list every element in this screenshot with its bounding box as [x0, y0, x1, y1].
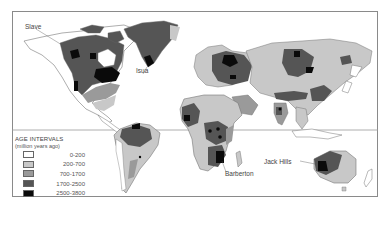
rae-craton [90, 53, 96, 59]
legend-label: 0-200 [41, 152, 85, 158]
legend-label: 1700-2500 [41, 181, 85, 187]
congo-core-3 [218, 135, 222, 139]
legend-item: 700-1700 [15, 169, 85, 179]
sa-craton-dot [139, 156, 141, 158]
legend-swatch-1700-2500 [23, 180, 34, 187]
legend-title: AGE INTERVALS [15, 136, 85, 143]
wyoming-craton [74, 81, 78, 91]
jack-hills-pointer [300, 161, 315, 164]
anabar-shield [294, 51, 300, 57]
kaapvaal-craton [216, 151, 224, 163]
legend-subtitle: (million years ago) [15, 143, 85, 150]
congo-core-1 [208, 129, 212, 133]
legend-swatch-200-700 [23, 161, 34, 168]
new-zealand [364, 169, 372, 187]
greenland-east-belt [170, 25, 180, 41]
madagascar [236, 151, 242, 167]
site-label-isua: Isua [136, 67, 148, 74]
site-label-slave: Slave [25, 23, 41, 30]
indian-craton-dot [279, 108, 282, 111]
legend-label: 700-1700 [41, 171, 85, 177]
site-label-jack-hills: Jack Hills [264, 158, 291, 165]
site-label-barberton: Barberton [225, 170, 254, 177]
legend-item: 1700-2500 [15, 179, 85, 189]
legend-label: 200-700 [41, 161, 85, 167]
congo-core-2 [216, 127, 220, 131]
indonesia [292, 129, 342, 139]
asia [246, 39, 372, 115]
southeast-asia [296, 107, 308, 129]
legend-swatch-2500-3800 [23, 190, 34, 197]
legend-item: 2500-3800 [15, 188, 85, 198]
legend-label: 2500-3800 [41, 190, 85, 196]
legend: AGE INTERVALS (million years ago) 0-200 … [15, 136, 85, 198]
wa-core [184, 115, 190, 121]
ukraine-craton-dots [230, 75, 236, 79]
legend-item: 200-700 [15, 160, 85, 170]
legend-swatch-700-1700 [23, 170, 34, 177]
legend-item: 0-200 [15, 150, 85, 160]
tasmania [342, 187, 346, 191]
legend-swatch-0-200 [23, 151, 34, 158]
